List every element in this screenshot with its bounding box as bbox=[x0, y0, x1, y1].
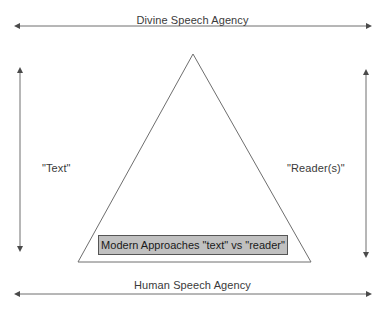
top-axis-label: Divine Speech Agency bbox=[0, 15, 385, 26]
modern-approaches-callout: Modern Approaches "text" vs "reader" bbox=[98, 235, 288, 255]
diagram-vector-layer bbox=[0, 0, 385, 313]
modern-approaches-callout-label: Modern Approaches "text" vs "reader" bbox=[101, 240, 285, 251]
left-axis-label: "Text" bbox=[42, 163, 71, 174]
triangle-shape bbox=[78, 54, 311, 262]
right-axis-label: "Reader(s)" bbox=[287, 163, 345, 174]
diagram-canvas: Divine Speech Agency "Text" "Reader(s)" … bbox=[0, 0, 385, 313]
bottom-axis-label: Human Speech Agency bbox=[0, 280, 385, 291]
